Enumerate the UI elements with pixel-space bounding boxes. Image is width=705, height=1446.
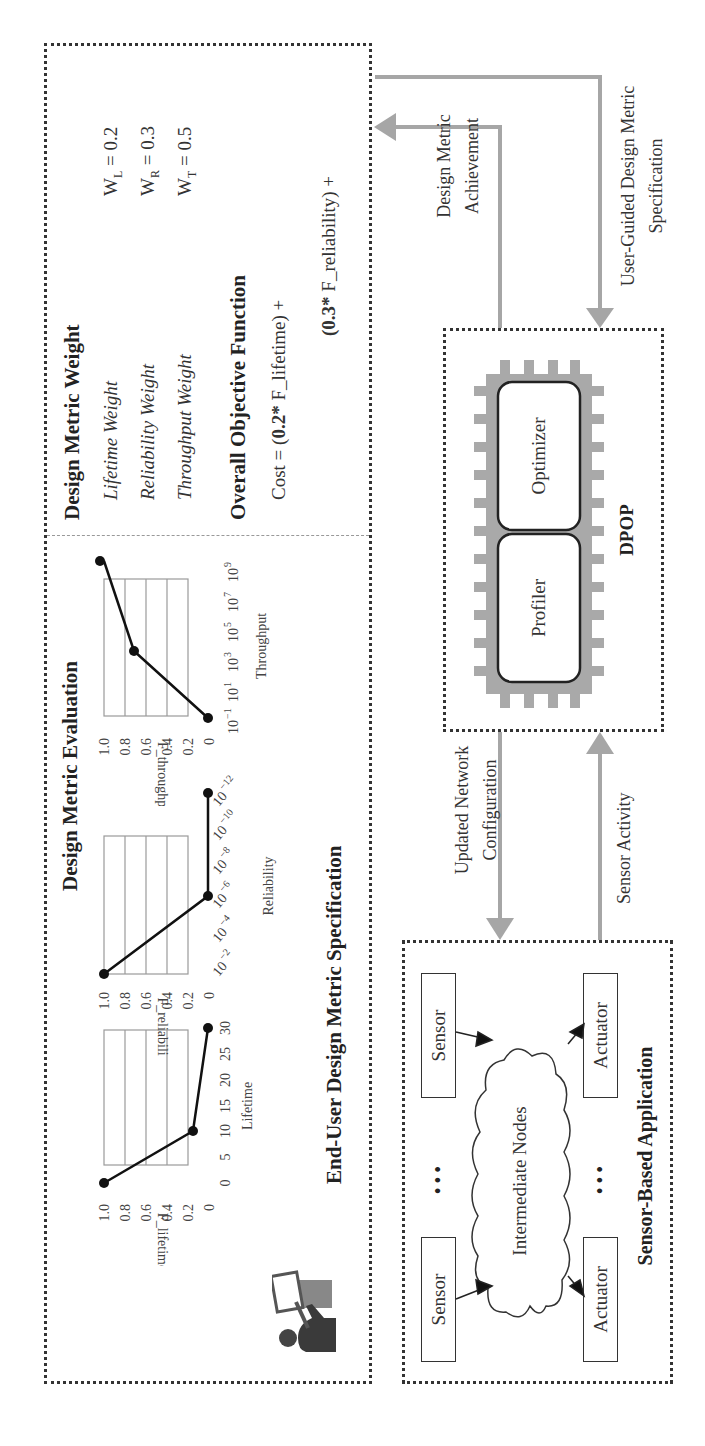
sensor-app-title: Sensor-Based Application — [634, 1016, 657, 1296]
chip-icon: Profiler Optimizer — [462, 356, 612, 716]
user-guided-arrowhead — [586, 308, 614, 328]
user-guided-arrow — [375, 77, 600, 308]
achievement-label: Design MetricAchievement — [430, 66, 486, 266]
dpop-title: DPOP — [616, 480, 638, 580]
profiler-label: Profiler — [528, 578, 549, 637]
sensor-activity-arrowhead — [586, 732, 614, 754]
achievement-arrowhead — [374, 113, 396, 141]
user-guided-label: User-Guided Design MetricSpecification — [614, 56, 670, 316]
node-arrows — [402, 940, 673, 1384]
updated-config-arrowhead — [486, 918, 514, 940]
optimizer-label: Optimizer — [528, 417, 549, 495]
updated-config-label: Updated NetworkConfiguration — [448, 710, 504, 910]
sensor-activity-label: Sensor Activity — [614, 793, 635, 905]
diagram-canvas: Design Metric Evaluation End-User Design… — [0, 0, 705, 1446]
